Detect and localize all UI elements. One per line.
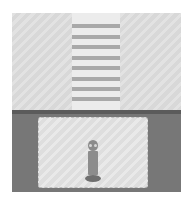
- crosswalk: [72, 13, 120, 111]
- character-head: [88, 140, 98, 151]
- game-scene: [0, 0, 193, 197]
- player-character[interactable]: [85, 140, 101, 184]
- crosswalk-stripe: [72, 87, 120, 91]
- character-base: [85, 175, 101, 182]
- crosswalk-stripe: [72, 35, 120, 39]
- eye-icon: [89, 144, 92, 147]
- crosswalk-stripe: [72, 56, 120, 60]
- eye-icon: [94, 144, 97, 147]
- crosswalk-stripe: [72, 66, 120, 70]
- crosswalk-stripe: [72, 45, 120, 49]
- wall-edge: [12, 110, 181, 114]
- crosswalk-stripe: [72, 97, 120, 101]
- character-body: [88, 151, 98, 175]
- crosswalk-stripe: [72, 77, 120, 81]
- crosswalk-stripe: [72, 24, 120, 28]
